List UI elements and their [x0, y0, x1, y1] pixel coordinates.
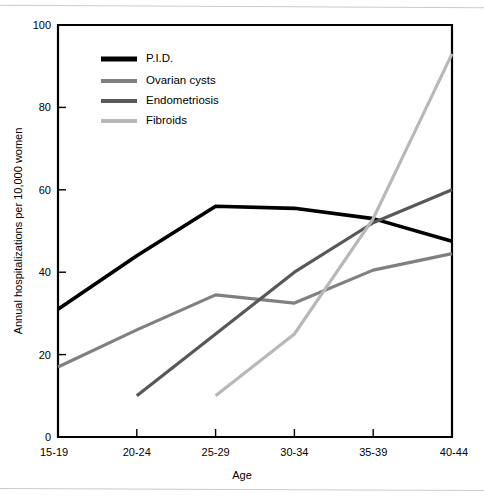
y-axis-title: Annual hospitalizations per 10,000 women: [12, 128, 24, 335]
x-axis-title: Age: [232, 469, 252, 481]
series-line-fibroids: [216, 54, 452, 396]
series-line-p-i-d: [58, 206, 452, 309]
legend-label-fibroids: Fibroids: [146, 114, 187, 126]
y-tick-label-20: 20: [39, 349, 51, 361]
legend-label-pid: P.I.D.: [146, 52, 173, 64]
x-axis-labels: 15-19 20-24 25-29 30-34 35-39 40-44: [40, 446, 468, 458]
y-tick-label-100: 100: [33, 19, 51, 31]
x-tick-label-40-44: 40-44: [440, 446, 468, 458]
series-layer: [58, 54, 452, 396]
y-axis-ticks: [58, 25, 66, 437]
y-tick-label-80: 80: [39, 101, 51, 113]
x-tick-label-30-34: 30-34: [280, 446, 308, 458]
legend-entry-ovarian-cysts: Ovarian cysts: [101, 74, 216, 86]
x-tick-label-15-19: 15-19: [40, 446, 68, 458]
legend-entry-fibroids: Fibroids: [101, 114, 187, 126]
legend-label-ovarian-cysts: Ovarian cysts: [146, 74, 216, 86]
legend-label-endometriosis: Endometriosis: [146, 94, 219, 106]
y-tick-label-60: 60: [39, 184, 51, 196]
legend-entry-endometriosis: Endometriosis: [101, 94, 219, 106]
y-tick-label-40: 40: [39, 266, 51, 278]
chart-figure: 0 20 40 60 80 100 15-19 20-24 25-29 30-3…: [0, 0, 484, 501]
plot-box: [58, 25, 452, 437]
x-tick-label-25-29: 25-29: [202, 446, 230, 458]
x-tick-label-35-39: 35-39: [359, 446, 387, 458]
x-axis-ticks: [58, 429, 452, 437]
y-axis-labels: 0 20 40 60 80 100: [33, 19, 51, 443]
series-line-endometriosis: [137, 190, 452, 396]
line-chart: 0 20 40 60 80 100 15-19 20-24 25-29 30-3…: [0, 0, 484, 501]
legend-entry-pid: P.I.D.: [101, 52, 173, 64]
chart-legend: P.I.D. Ovarian cysts Endometriosis Fibro…: [101, 52, 219, 126]
x-tick-label-20-24: 20-24: [123, 446, 151, 458]
y-tick-label-0: 0: [45, 431, 51, 443]
axes-frame: [58, 25, 452, 437]
